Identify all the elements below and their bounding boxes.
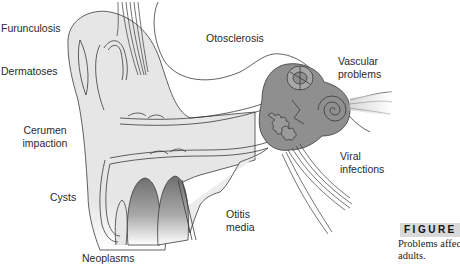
label-otitis-media: Otitis media [226,208,255,233]
ear-diagram-figure: Furunculosis Dermatoses Cerumen impactio… [0,0,460,267]
label-neoplasms: Neoplasms [82,252,135,265]
label-cerumen-line2: impaction [20,137,70,150]
label-cysts: Cysts [50,191,76,204]
label-furunculosis: Furunculosis [1,22,61,35]
figure-label-bar: FIGURE [400,223,460,237]
caption-line1: Problems affecting the ear in [398,238,460,250]
label-vascular-line1: Vascular [338,55,381,68]
label-viral-infections: Viral infections [340,150,384,175]
label-otitis-line1: Otitis [226,208,255,221]
label-cerumen-impaction: Cerumen impaction [20,124,70,149]
label-otitis-line2: media [226,221,255,234]
label-viral-line1: Viral [340,150,384,163]
label-dermatoses: Dermatoses [1,65,58,78]
inner-ear [259,64,350,151]
figure-label: FIGURE [404,224,457,235]
label-cerumen-line1: Cerumen [20,124,70,137]
label-vascular-line2: problems [338,68,381,81]
label-vascular-problems: Vascular problems [338,55,381,80]
label-otosclerosis: Otosclerosis [206,32,264,45]
caption-line2: adults. [398,250,460,262]
figure-caption: Problems affecting the ear in adults. [398,238,460,262]
label-viral-line2: infections [340,163,384,176]
